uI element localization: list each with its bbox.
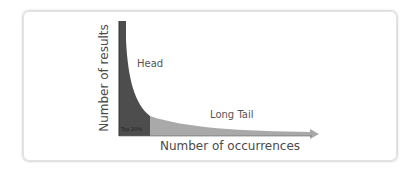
head-region <box>119 21 150 136</box>
arrow-icon <box>310 129 319 139</box>
x-axis-label: Number of occurrences <box>150 139 310 153</box>
top-20-label: Top 20% <box>121 126 142 132</box>
head-label: Head <box>137 58 163 69</box>
y-axis-label-box: Number of results <box>96 20 112 136</box>
y-axis-label: Number of results <box>97 24 111 132</box>
long-tail-label: Long Tail <box>210 109 254 120</box>
